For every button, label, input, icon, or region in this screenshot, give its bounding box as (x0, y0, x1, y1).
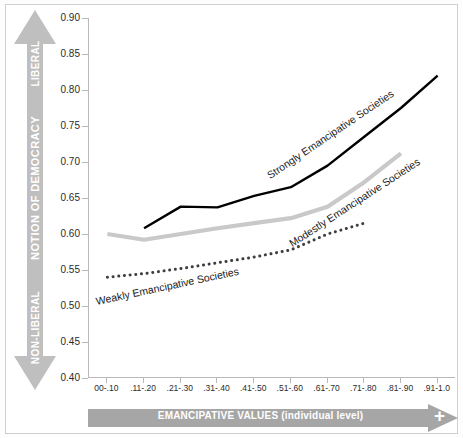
x-axis-tick-mark (290, 378, 291, 383)
y-axis-top-label: LIBERAL (30, 31, 41, 97)
plus-sign-icon: + (434, 406, 445, 425)
x-axis-tick-mark (327, 378, 328, 383)
plot-area (88, 18, 455, 378)
y-axis-tick-label: 0.60 (40, 228, 80, 239)
x-axis-tick-mark (363, 378, 364, 383)
x-axis-tick-mark (400, 378, 401, 383)
y-axis-tick-label: 0.85 (40, 48, 80, 59)
y-axis-tick-label: 0.90 (40, 12, 80, 23)
y-axis-tick-label: 0.80 (40, 84, 80, 95)
x-axis-tick-mark (143, 378, 144, 383)
chart-figure: LIBERAL NOTION OF DEMOCRACY NON-LIBERAL … (0, 0, 463, 438)
x-axis-title: EMANCIPATIVE VALUES (individual level) (88, 410, 433, 421)
y-axis-tick-label: 0.75 (40, 120, 80, 131)
x-axis-tick-label: .91-1.0 (415, 383, 459, 393)
x-axis-tick-mark (216, 378, 217, 383)
y-axis-tick-label: 0.65 (40, 192, 80, 203)
x-axis-tick-mark (180, 378, 181, 383)
x-axis-tick-mark (437, 378, 438, 383)
x-axis-tick-mark (253, 378, 254, 383)
x-axis-tick-mark (106, 378, 107, 383)
y-axis-tick-label: 0.55 (40, 264, 80, 275)
y-axis-tick-label: 0.70 (40, 156, 80, 167)
y-axis-bottom-label: NON-LIBERAL (30, 285, 41, 371)
y-axis-tick-label: 0.50 (40, 300, 80, 311)
y-axis-tick-mark (82, 378, 88, 379)
y-axis-tick-label: 0.45 (40, 336, 80, 347)
y-axis-title: NOTION OF DEMOCRACY (29, 113, 41, 263)
y-axis-tick-label: 0.40 (40, 372, 80, 383)
